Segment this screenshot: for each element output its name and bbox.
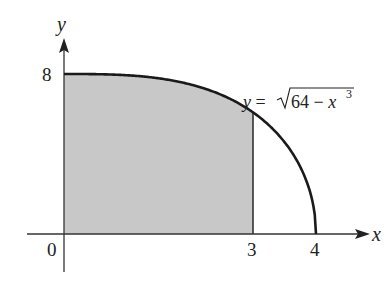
origin-label: 0	[47, 239, 57, 260]
y-axis-label: y	[55, 13, 66, 36]
y-tick-8: 8	[42, 64, 52, 85]
x-axis-label: x	[371, 223, 381, 245]
x-tick-3: 3	[247, 239, 257, 260]
svg-text:y =: y =	[241, 92, 266, 112]
x-tick-4: 4	[310, 239, 320, 260]
shaded-area	[64, 74, 253, 234]
radicand: 64 − x	[291, 92, 336, 112]
function-label: y = 64 − x 3	[241, 87, 354, 112]
area-diagram: y x 8 0 3 4 y = 64 − x 3	[0, 0, 392, 289]
exponent: 3	[346, 87, 352, 101]
